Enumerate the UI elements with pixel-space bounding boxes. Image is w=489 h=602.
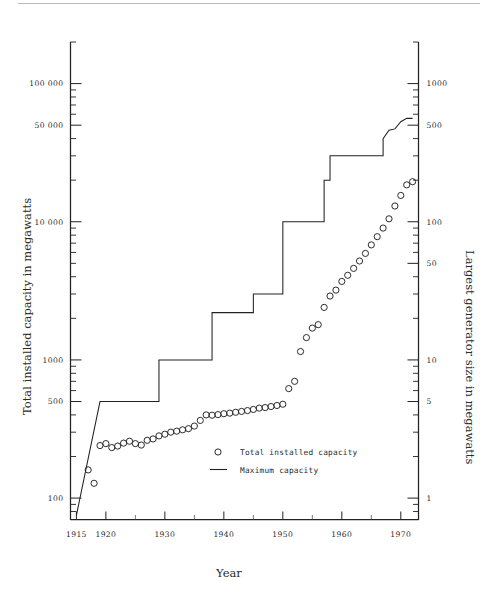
data-point-marker (339, 278, 345, 284)
data-point-marker (233, 409, 239, 415)
x-axis-tick-labels: 1915192019301940195019601970 (66, 530, 411, 539)
left-tick-label: 100 (48, 494, 64, 503)
right-axis-tick-labels: 1510501005001000 (427, 79, 448, 503)
data-point-marker (262, 404, 268, 410)
right-tick-label: 50 (427, 259, 437, 268)
data-point-marker (185, 426, 191, 432)
left-tick-label: 10 000 (35, 218, 64, 227)
data-point-marker (132, 441, 138, 447)
right-tick-label: 100 (427, 218, 443, 227)
data-point-marker (380, 225, 386, 231)
x-axis-ticks (76, 512, 400, 520)
data-point-marker (292, 378, 298, 384)
data-point-marker (203, 412, 209, 418)
data-point-marker (244, 407, 250, 413)
left-tick-label: 1000 (43, 356, 64, 365)
data-point-marker (362, 250, 368, 256)
data-point-marker (91, 480, 97, 486)
data-point-marker (280, 401, 286, 407)
data-point-marker (168, 429, 174, 435)
data-point-marker (156, 433, 162, 439)
x-tick-label: 1930 (154, 530, 175, 539)
data-point-marker (268, 403, 274, 409)
data-point-marker (404, 182, 410, 188)
data-point-marker (238, 408, 244, 414)
chart-legend: Total installed capacity Maximum capacit… (210, 448, 358, 475)
legend-label-total-installed-capacity: Total installed capacity (240, 448, 358, 457)
total-installed-capacity-markers (85, 179, 416, 487)
data-point-marker (150, 436, 156, 442)
data-point-marker (250, 406, 256, 412)
left-axis-ticks (71, 42, 82, 520)
x-tick-label: 1940 (213, 530, 234, 539)
x-tick-label: 1960 (331, 530, 352, 539)
data-point-marker (221, 411, 227, 417)
x-tick-label: 1950 (272, 530, 293, 539)
data-point-marker (333, 287, 339, 293)
right-tick-label: 500 (427, 121, 443, 130)
data-point-marker (297, 348, 303, 354)
right-axis-title: Largest generator size in megawatts (463, 250, 477, 464)
data-point-marker (345, 272, 351, 278)
data-point-marker (227, 410, 233, 416)
right-tick-label: 1000 (427, 79, 448, 88)
data-point-marker (138, 442, 144, 448)
data-point-marker (174, 428, 180, 434)
data-point-marker (197, 417, 203, 423)
data-point-marker (368, 242, 374, 248)
x-axis-title: Year (215, 566, 242, 580)
data-point-marker (303, 335, 309, 341)
data-point-marker (256, 405, 262, 411)
log-log-chart: 100500100010 00050 000100 000 1510501005… (0, 0, 489, 602)
data-point-marker (315, 322, 321, 328)
right-tick-label: 10 (427, 356, 437, 365)
left-axis-tick-labels: 100500100010 00050 000100 000 (29, 79, 63, 503)
data-point-marker (115, 443, 121, 449)
right-axis-ticks (408, 42, 419, 520)
left-tick-label: 50 000 (35, 121, 64, 130)
data-point-marker (321, 304, 327, 310)
data-point-marker (97, 442, 103, 448)
data-point-marker (392, 203, 398, 209)
left-axis-title: Total installed capacity in megawatts (20, 198, 34, 415)
left-tick-label: 100 000 (29, 79, 63, 88)
data-point-marker (209, 412, 215, 418)
data-point-marker (179, 427, 185, 433)
figure-canvas: 100500100010 00050 000100 000 1510501005… (0, 0, 489, 602)
data-point-marker (309, 325, 315, 331)
right-tick-label: 5 (427, 397, 432, 406)
x-tick-label: 1920 (95, 530, 116, 539)
x-tick-label: 1915 (66, 530, 87, 539)
data-point-marker (286, 386, 292, 392)
scan-artifact-line (18, 3, 480, 4)
data-point-marker (120, 440, 126, 446)
data-point-marker (191, 423, 197, 429)
data-point-marker (109, 445, 115, 451)
data-point-marker (386, 216, 392, 222)
data-point-marker (144, 437, 150, 443)
data-point-marker (356, 258, 362, 264)
data-point-marker (103, 441, 109, 447)
data-point-marker (351, 265, 357, 271)
legend-circle-icon (215, 449, 221, 455)
data-point-marker (398, 192, 404, 198)
x-tick-label: 1970 (390, 530, 411, 539)
data-point-marker (410, 179, 416, 185)
data-point-marker (327, 293, 333, 299)
right-tick-label: 1 (427, 494, 432, 503)
data-point-marker (162, 431, 168, 437)
data-point-marker (215, 412, 221, 418)
legend-label-maximum-capacity: Maximum capacity (240, 466, 318, 475)
data-point-marker (126, 438, 132, 444)
data-point-marker (274, 402, 280, 408)
left-tick-label: 500 (48, 397, 64, 406)
data-point-marker (374, 234, 380, 240)
